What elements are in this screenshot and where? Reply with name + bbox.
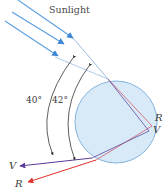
- angle-arc-40: [47, 58, 73, 155]
- incident-ray-ext: [55, 57, 108, 79]
- red-exit-ray: [28, 160, 96, 182]
- angle-label-42: 42°: [52, 96, 68, 105]
- violet-label-left: V: [9, 161, 16, 171]
- violet-label-right: V: [153, 125, 160, 135]
- water-droplet: [75, 81, 157, 163]
- rainbow-diagram: Sunlight 40° 42° R V V R: [0, 0, 168, 195]
- sunlight-label: Sunlight: [49, 5, 90, 15]
- red-label-right: R: [155, 113, 163, 123]
- sunlight-ray-2: [12, 12, 64, 44]
- red-label-left: R: [15, 179, 23, 189]
- angle-label-40: 40°: [26, 96, 42, 105]
- sunlight-ray-3: [5, 21, 58, 56]
- incident-ray: [73, 38, 108, 79]
